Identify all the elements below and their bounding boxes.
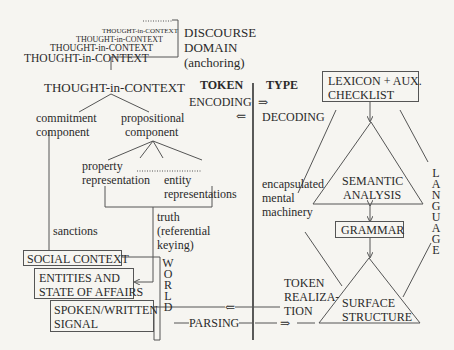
discourse-label-line3: (anchoring) [184,56,245,69]
encapsulated-line1: encapsulated [262,178,324,190]
decoding-label: DECODING [262,111,325,123]
token-heading: TOKEN [200,79,243,91]
entity-line1: entity [164,174,191,186]
entities-box: ENTITIES AND STATE OF AFFAIRS [34,268,134,299]
grammar-box: GRAMMAR [335,221,404,238]
lexicon-box: LEXICON + AUX. CHECKLIST [322,71,419,102]
encapsulated-line3: machinery [262,206,313,218]
social-context-label: SOCIAL CONTEXT [27,253,129,265]
lexicon-line1: LEXICON + AUX. [328,75,422,87]
surface-line1: SURFACE [342,297,395,309]
signal-line2: SIGNAL [54,318,98,330]
parsing-label: PARSING [189,317,239,329]
encoding-label: ENCODING [189,96,252,108]
grammar-label: GRAMMAR [341,224,404,236]
type-heading: TYPE [266,79,298,91]
propositional-line1: propositional [121,112,184,124]
semantic-line2: ANALYSIS [343,189,401,201]
truth-line3: keying) [157,239,194,251]
language-vertical-label: LANGUAGE [430,168,442,256]
world-vertical-label: WORLD [162,258,174,313]
realization-arrow: ⇐ [225,301,235,313]
entities-line2: STATE OF AFFAIRS [39,286,143,298]
discourse-label-line1: DISCOURSE [184,26,256,39]
property-line1: property [82,160,123,172]
thought-title: THOUGHT-in-CONTEXT [44,81,185,94]
parsing-arrow: ⇒ [280,317,290,329]
lexicon-line2: CHECKLIST [328,89,394,101]
semantic-line1: SEMANTIC [342,175,403,187]
truth-line2: (referential [157,225,210,237]
signal-line1: SPOKEN/WRITTEN [54,304,158,316]
discourse-label-line2: DOMAIN [184,41,237,54]
entity-line2: representations [164,188,237,200]
sanctions-label: sanctions [53,225,98,237]
decoding-arrow: ⇐ [236,110,246,122]
token-realization-line2: REALIZA- [284,291,339,303]
signal-box: SPOKEN/WRITTEN SIGNAL [50,300,154,332]
encoding-arrow: ⇒ [258,96,268,108]
thought-stack-item-1: THOUGHT-in-CONTEXT [102,28,178,35]
commitment-line1: commitment [36,112,97,124]
entities-line1: ENTITIES AND [39,272,120,284]
token-realization-line1: TOKEN [284,277,324,289]
commitment-line2: component [36,126,89,138]
social-context-box: SOCIAL CONTEXT [23,250,122,266]
truth-line1: truth [157,211,180,223]
encapsulated-line2: mental [262,192,295,204]
thought-stack-item-4: THOUGHT-in-CONTEXT [24,53,149,65]
propositional-line2: component [125,126,178,138]
surface-line2: STRUCTURE [342,311,412,323]
property-line2: representation [82,174,150,186]
